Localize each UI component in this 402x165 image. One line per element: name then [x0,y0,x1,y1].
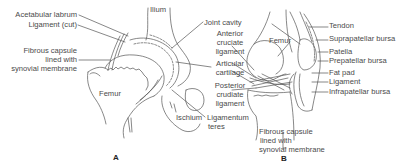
label-femur-a: Femur [99,90,121,98]
label-fibrous-capsule-b-line3: synovial membrane [259,146,325,154]
label-anterior-cruciate-line3: ligament [205,48,255,56]
label-acetabular-labrum: Acetabular labrum [2,11,77,19]
label-ligament-cut: Ligament (cut) [2,21,77,29]
label-ilium: Ilium [150,6,166,14]
femur-shaft [87,67,154,138]
label-fibrous-capsule-a-line3: synovial membrane [0,65,77,73]
label-prepatellar-bursa: Prepatellar bursa [329,57,387,65]
label-suprapatellar-bursa: Suprapatellar bursa [329,35,395,43]
label-ligament-b: Ligament [329,78,360,86]
label-joint-cavity: Joint cavity [204,19,242,27]
label-ligamentum-teres-line2: teres [208,123,225,131]
panel-letter-b: B [281,154,287,163]
label-infrapatellar-bursa: Infrapatellar bursa [329,88,390,96]
label-tendon: Tendon [329,22,354,30]
panel-letter-a: A [113,153,119,162]
label-ischium: Ischium [176,114,202,122]
label-femur-b: Femur [269,37,291,45]
label-articular-cartilage-line2: cartilage [205,69,255,77]
label-posterior-cruciate-line3: ligament [205,100,255,108]
